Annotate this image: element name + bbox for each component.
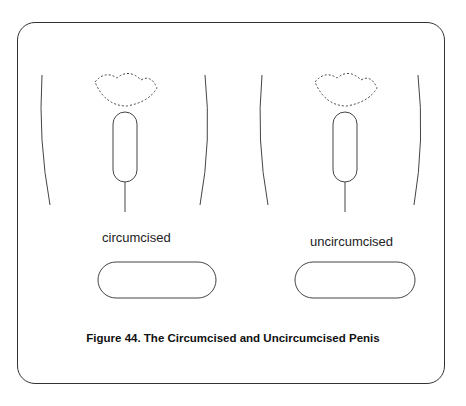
label-circumcised: circumcised [102, 230, 171, 245]
left-side-view [98, 262, 216, 298]
right-side-view [295, 262, 415, 298]
line-drawings [0, 0, 466, 406]
left-body-outline [41, 75, 50, 205]
label-uncircumcised: uncircumcised [310, 234, 393, 249]
figure-caption: Figure 44. The Circumcised and Uncircumc… [0, 332, 466, 344]
